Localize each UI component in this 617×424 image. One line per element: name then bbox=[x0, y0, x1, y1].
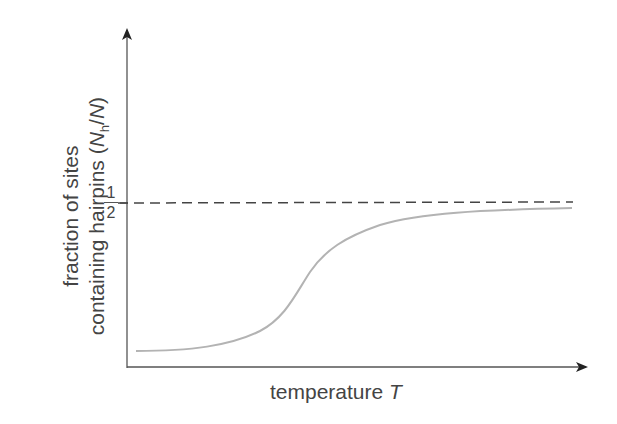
y-label-text: containing hairpins ( bbox=[85, 147, 108, 335]
y-label-sub: h bbox=[97, 125, 112, 132]
y-label-close: ) bbox=[85, 97, 108, 104]
sigmoid-curve bbox=[136, 208, 572, 351]
y-axis-label: fraction of sites containing hairpins (N… bbox=[58, 36, 118, 396]
x-axis-label: temperature T bbox=[270, 380, 402, 404]
x-label-var: T bbox=[389, 380, 402, 403]
y-axis-label-line2: containing hairpins (Nh/N) bbox=[84, 36, 118, 396]
x-label-text: temperature bbox=[270, 380, 389, 403]
y-label-slash: / bbox=[85, 119, 108, 125]
y-label-var2: N bbox=[85, 104, 108, 119]
y-axis-label-line1: fraction of sites bbox=[58, 36, 84, 396]
half-asymptote-line bbox=[118, 202, 573, 203]
y-label-var: N bbox=[85, 132, 108, 147]
